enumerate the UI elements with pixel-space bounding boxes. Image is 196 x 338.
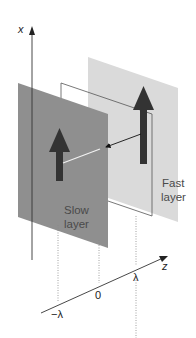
- slow-layer-label-1: Slow: [64, 204, 90, 216]
- fast-layer-label-2: layer: [161, 191, 186, 203]
- z-tick-zero: 0: [95, 289, 101, 301]
- slow-layer-label-2: layer: [64, 218, 89, 230]
- z-axis-label: z: [161, 260, 168, 272]
- z-axis: [41, 256, 168, 313]
- fast-layer-label-1: Fast: [162, 177, 185, 189]
- z-tick-neg-lambda: −λ: [51, 308, 63, 320]
- wave-layers-diagram: x Slow layer Fast layer z −λ 0 λ: [0, 0, 196, 338]
- x-axis-label: x: [17, 23, 24, 35]
- z-tick-lambda: λ: [133, 271, 139, 283]
